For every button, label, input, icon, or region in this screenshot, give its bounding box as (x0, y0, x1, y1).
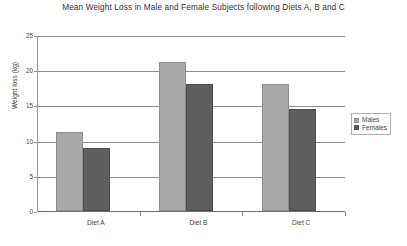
x-category-label: Diet C (266, 219, 336, 226)
bar-females-diet-b (186, 84, 213, 211)
bar-females-diet-a (83, 148, 110, 211)
y-tick-label: 0 (3, 209, 33, 215)
bar-chart: Mean Weight Loss in Male and Female Subj… (0, 0, 407, 246)
y-tick-label: 20 (3, 68, 33, 74)
chart-title: Mean Weight Loss in Male and Female Subj… (0, 3, 407, 12)
legend-label: Females (362, 125, 387, 132)
y-tick-mark (34, 212, 37, 213)
legend-label: Males (362, 117, 379, 124)
y-tick-label: 15 (3, 103, 33, 109)
y-tick-label: 5 (3, 174, 33, 180)
legend-entry-males[interactable]: Males (354, 117, 387, 124)
legend-swatch-icon (354, 125, 359, 130)
gridline (38, 71, 345, 72)
bar-males-diet-c (262, 84, 289, 211)
legend-entry-females[interactable]: Females (354, 125, 387, 132)
bar-males-diet-a (56, 132, 83, 211)
x-category-label: Diet A (61, 219, 131, 226)
x-tick-mark (242, 212, 243, 216)
y-axis-title: Weight loss (kg) (11, 36, 18, 136)
gridline (38, 36, 345, 37)
plot-area (37, 36, 345, 212)
bar-males-diet-b (159, 62, 186, 211)
y-tick-label: 25 (3, 33, 33, 39)
x-tick-mark (345, 212, 346, 216)
x-category-label: Diet B (164, 219, 234, 226)
x-tick-mark (140, 212, 141, 216)
bar-females-diet-c (289, 109, 316, 211)
legend-swatch-icon (354, 118, 359, 123)
chart-legend: MalesFemales (351, 113, 391, 135)
y-tick-label: 10 (3, 139, 33, 145)
